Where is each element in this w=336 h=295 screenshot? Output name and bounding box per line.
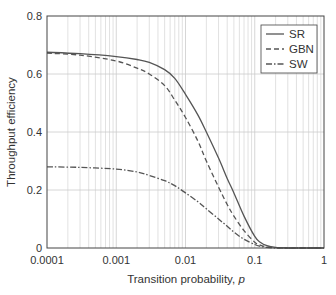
x-tick-label: 1 xyxy=(321,254,327,266)
x-tick-label: 0.01 xyxy=(175,254,196,266)
throughput-efficiency-chart: 00.20.40.60.8 0.00010.0010.010.11 Throug… xyxy=(0,0,336,295)
y-axis-label: Throughput efficiency xyxy=(5,77,17,187)
y-tick-label: 0.4 xyxy=(27,126,42,138)
legend-label-sw: SW xyxy=(289,58,308,70)
x-tick-label: 0.001 xyxy=(102,254,130,266)
x-tick-label: 0.0001 xyxy=(30,254,64,266)
legend-label-sr: SR xyxy=(289,28,305,40)
y-tick-label: 0 xyxy=(36,242,42,254)
y-tick-label: 0.6 xyxy=(27,68,42,80)
y-tick-label: 0.8 xyxy=(27,10,42,22)
legend-label-gbn: GBN xyxy=(289,43,314,55)
x-axis-label: Transition probability, p xyxy=(127,273,245,285)
x-tick-label: 0.1 xyxy=(247,254,262,266)
y-tick-label: 0.2 xyxy=(27,184,42,196)
legend: SRGBNSW xyxy=(261,25,317,73)
y-axis-ticks: 00.20.40.60.8 xyxy=(27,10,42,254)
x-axis-ticks: 0.00010.0010.010.11 xyxy=(30,254,327,266)
